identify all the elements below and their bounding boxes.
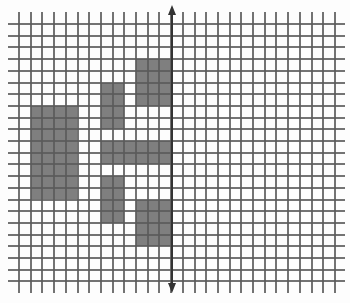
grid-horizontal-line [8,70,345,72]
grid-horizontal-line [8,152,345,154]
grid-horizontal-line [8,105,345,107]
grid-horizontal-line [8,257,345,259]
grid-horizontal-line [8,187,345,189]
axis-line [171,11,173,287]
grid-horizontal-line [8,117,345,119]
grid-horizontal-line [8,93,345,95]
grid-horizontal-line [8,82,345,84]
arrow-up-icon [168,5,176,15]
grid-horizontal-line [8,163,345,165]
arrow-down-icon [168,283,176,293]
grid-horizontal-line [8,245,345,247]
grid-horizontal-line [8,269,345,271]
grid-horizontal-line [8,234,345,236]
grid-horizontal-line [8,46,345,48]
grid-horizontal-line [8,210,345,212]
grid-horizontal-line [8,140,345,142]
grid-horizontal-line [8,23,345,25]
grid-horizontal-line [8,35,345,37]
grid-horizontal-line [8,58,345,60]
grid-horizontal-line [8,128,345,130]
grid-diagram [0,0,350,303]
grid-horizontal-line [8,280,345,282]
grid-horizontal-line [8,199,345,201]
grid-horizontal-line [8,175,345,177]
grid-horizontal-line [8,222,345,224]
